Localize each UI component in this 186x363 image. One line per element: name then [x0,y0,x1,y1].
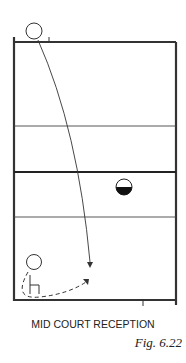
server-player-icon [26,23,42,39]
ball-path-arrow [38,40,90,262]
figure-label: Fig. 6.22 [135,335,182,351]
diagram-caption: MID COURT RECEPTION [0,318,186,330]
chair-icon [30,275,39,294]
arrowhead-icon [87,262,93,268]
receiver-player-icon [27,255,42,270]
opponent-player-icon [116,179,132,195]
court-diagram [0,0,186,363]
arrowhead-icon [83,279,89,285]
